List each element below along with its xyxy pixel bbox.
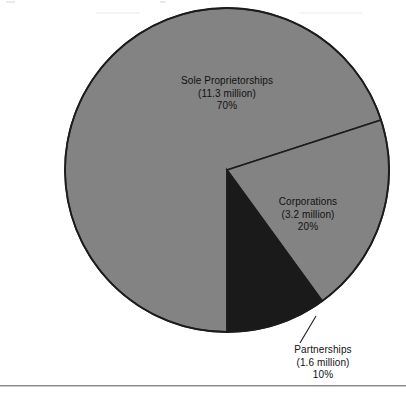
pie-label-corporations: Corporations (3.2 million) 20% <box>238 196 378 234</box>
footer-divider-shadow <box>0 386 406 387</box>
pie-label-corporations-count: (3.2 million) <box>238 209 378 222</box>
partnerships-leader-line <box>300 316 316 343</box>
pie-label-sole-proprietorships-percent: 70% <box>127 100 327 113</box>
pie-label-partnerships-percent: 10% <box>258 369 388 382</box>
pie-label-sole-proprietorships-name: Sole Proprietorships <box>127 75 327 88</box>
pie-label-partnerships-name: Partnerships <box>258 344 388 357</box>
pie-label-partnerships-count: (1.6 million) <box>258 357 388 370</box>
pie-label-sole-proprietorships: Sole Proprietorships (11.3 million) 70% <box>127 75 327 113</box>
figure-root: Sole Proprietorships (11.3 million) 70% … <box>0 0 406 395</box>
pie-label-sole-proprietorships-count: (11.3 million) <box>127 88 327 101</box>
pie-label-corporations-name: Corporations <box>238 196 378 209</box>
pie-label-corporations-percent: 20% <box>238 221 378 234</box>
pie-label-partnerships: Partnerships (1.6 million) 10% <box>258 344 388 382</box>
